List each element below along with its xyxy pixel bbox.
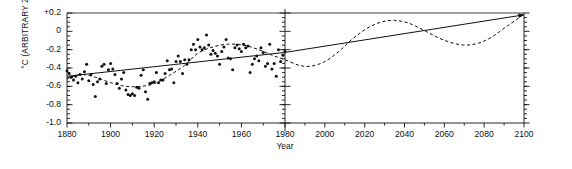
data-point [137,87,140,90]
data-point [275,75,278,78]
chart-container: °C (ARBITRARY ZERO) +0.20-0.2-0.4-0.6-0.… [0,0,572,169]
x-tick-label: 1960 [221,129,261,139]
y-tick-label: -0.8 [27,99,61,109]
data-point [253,57,256,60]
data-point [81,78,84,81]
data-point [157,81,160,84]
data-point [273,62,276,65]
y-tick-label: +0.2 [27,7,61,17]
data-point [249,71,252,74]
data-point [257,59,260,62]
data-point [87,79,90,82]
x-tick-label: 2040 [385,129,425,139]
data-point [68,72,71,75]
data-point [260,46,263,49]
y-tick-label: -0.4 [27,62,61,72]
data-point [107,68,110,71]
data-point [222,45,225,48]
data-point [279,60,282,63]
x-tick-label: 1940 [178,129,218,139]
data-point [214,52,217,55]
data-point [96,80,99,83]
data-point [220,50,223,53]
linear-trend-line [67,15,524,76]
data-point [207,44,210,47]
data-point [212,49,215,52]
data-point [281,54,284,57]
x-tick-label: 2060 [424,129,464,139]
x-tick-label: 2000 [305,129,345,139]
data-point [277,48,280,51]
data-point [122,71,125,74]
data-point [209,53,212,56]
data-point [240,50,243,53]
x-tick-label: 2100 [504,129,544,139]
data-point [120,78,123,81]
data-point [146,98,149,101]
data-point [175,60,178,63]
data-point [238,47,241,50]
x-tick-label: 1880 [47,129,87,139]
data-point [203,46,206,49]
data-point [196,38,199,41]
data-point [198,45,201,48]
data-point [111,67,114,70]
data-point [133,94,136,97]
data-point [268,43,271,46]
x-tick-label: 1980 [265,129,305,139]
x-axis-title: Year [265,141,305,151]
data-point [251,63,254,66]
data-point [179,60,182,63]
data-point [270,67,273,70]
data-point [266,62,269,65]
data-point [216,55,219,58]
data-point [103,63,106,66]
data-point [83,70,86,73]
data-point [105,82,108,85]
data-point [164,72,167,75]
data-point [170,67,173,70]
data-point [85,63,88,66]
data-point [177,55,180,58]
data-point [233,46,236,49]
data-point [124,89,127,92]
data-point [172,81,175,84]
data-point [76,81,79,84]
y-tick-label: -0.2 [27,44,61,54]
data-point [231,68,234,71]
data-point [144,90,147,93]
data-point [72,78,75,81]
data-point [192,43,195,46]
data-point [140,74,143,77]
x-tick-label: 1900 [91,129,131,139]
y-tick-label: -0.6 [27,80,61,90]
data-point [166,59,169,62]
data-point [113,73,116,76]
x-tick-label: 1920 [134,129,174,139]
data-point [205,34,208,37]
data-point [190,48,193,51]
data-point [92,83,95,86]
data-point [183,58,186,61]
data-point [225,38,228,41]
data-point [94,95,97,98]
data-point [142,68,145,71]
data-point [262,51,265,54]
data-point [218,63,221,66]
x-tick-label: 2020 [345,129,385,139]
data-point [155,71,158,74]
x-tick-label: 2080 [464,129,504,139]
data-point [264,65,267,68]
y-tick-label: -1.0 [27,117,61,127]
data-point [118,87,121,90]
data-point [109,62,112,65]
data-point [66,69,69,72]
data-point [181,72,184,75]
y-tick-label: 0 [27,25,61,35]
data-point [194,48,197,51]
